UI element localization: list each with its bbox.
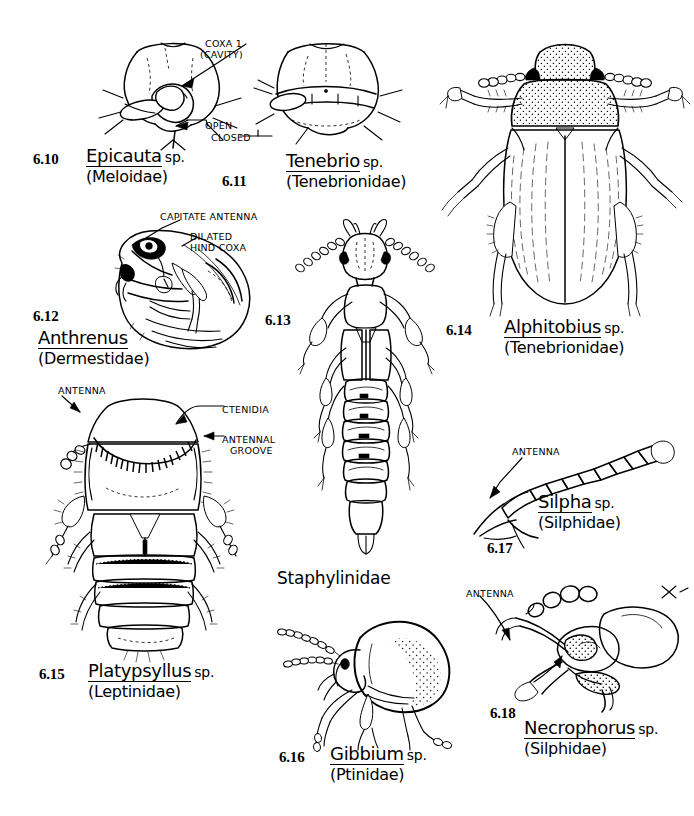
- figure-number-6-11: 6.11: [222, 173, 247, 190]
- genus-necrophorus: Necrophorus: [524, 717, 635, 739]
- figure-6-16-drawing: [268, 598, 468, 748]
- figure-number-6-14: 6.14: [446, 322, 471, 339]
- family-tenebrionidae-6-11: (Tenebrionidae): [286, 173, 406, 192]
- sp-abbrev-6-16: sp.: [404, 747, 427, 763]
- genus-tenebrio: Tenebrio: [286, 150, 360, 172]
- sp-abbrev-6-11: sp.: [360, 154, 383, 170]
- genus-alphitobius: Alphitobius: [504, 316, 601, 338]
- genus-epicauta: Epicauta: [86, 145, 162, 167]
- figure-6-15-drawing: [50, 392, 240, 652]
- genus-anthrenus: Anthrenus: [38, 327, 128, 349]
- figure-caption-6-11: Tenebriosp. (Tenebrionidae): [286, 150, 406, 192]
- illustration-plate: COXA 1 (CAVITY) OPEN CLOSED 6.10 Epicaut…: [0, 0, 694, 816]
- figure-number-6-12: 6.12: [33, 308, 58, 325]
- figure-6-13-drawing: [300, 218, 430, 568]
- figure-6-14-drawing: [444, 38, 684, 308]
- figure-caption-6-17: Silphasp. (Silphidae): [538, 491, 621, 533]
- leader-open: [160, 112, 220, 138]
- figure-caption-6-10: Epicautasp. (Meloidae): [86, 145, 185, 187]
- figure-caption-6-14: Alphitobiussp. (Tenebrionidae): [504, 316, 624, 358]
- sp-abbrev-6-18: sp.: [635, 721, 658, 737]
- family-tenebrionidae-6-14: (Tenebrionidae): [504, 339, 624, 358]
- genus-silpha: Silpha: [538, 491, 592, 513]
- sp-abbrev-6-14: sp.: [601, 320, 624, 336]
- family-ptinidae: (Ptinidae): [330, 766, 427, 785]
- figure-6-11-drawing: [252, 36, 412, 151]
- figure-caption-6-16: Gibbiumsp. (Ptinidae): [330, 743, 427, 785]
- figure-number-6-18: 6.18: [490, 705, 515, 722]
- family-silphidae-6-17: (Silphidae): [538, 514, 621, 533]
- leader-coxa-cavity: [160, 40, 250, 100]
- family-silphidae-6-18: (Silphidae): [524, 740, 658, 759]
- sp-abbrev-6-15: sp.: [191, 664, 214, 680]
- family-dermestidae: (Dermestidae): [38, 350, 149, 369]
- figure-number-6-10: 6.10: [33, 151, 58, 168]
- figure-caption-6-12: Anthrenus (Dermestidae): [38, 327, 149, 369]
- figure-number-6-13: 6.13: [265, 312, 290, 329]
- family-staphylinidae: Staphylinidae: [277, 568, 391, 588]
- genus-gibbium: Gibbium: [330, 743, 404, 765]
- sp-abbrev-6-17: sp.: [592, 495, 615, 511]
- sp-abbrev-6-10: sp.: [162, 149, 185, 165]
- family-meloidae: (Meloidae): [86, 168, 185, 187]
- figure-number-6-17: 6.17: [487, 540, 512, 557]
- figure-number-6-15: 6.15: [39, 666, 64, 683]
- figure-number-6-16: 6.16: [279, 749, 304, 766]
- figure-caption-6-15: Platypsyllussp. (Leptinidae): [88, 660, 214, 702]
- figure-caption-6-18: Necrophorussp. (Silphidae): [524, 717, 658, 759]
- genus-platypsyllus: Platypsyllus: [88, 660, 191, 682]
- figure-6-18-drawing: [476, 578, 691, 708]
- family-leptinidae: (Leptinidae): [88, 683, 214, 702]
